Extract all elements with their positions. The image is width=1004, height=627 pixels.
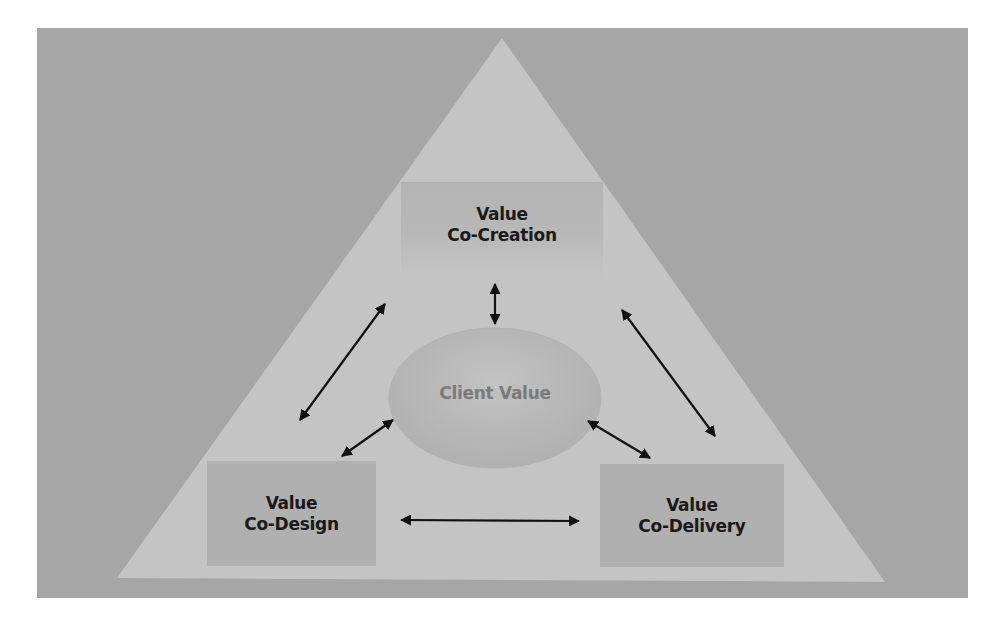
node-line2: Co-Delivery bbox=[638, 516, 745, 537]
node-value-co-delivery: Value Co-Delivery bbox=[600, 464, 784, 567]
diagram-canvas bbox=[0, 0, 1004, 627]
node-value-co-design: Value Co-Design bbox=[207, 461, 376, 566]
node-line1: Value bbox=[638, 495, 745, 516]
arrow-left-right bbox=[401, 520, 579, 521]
client-value-label: Client Value bbox=[390, 383, 600, 403]
node-line1: Value bbox=[447, 204, 557, 225]
node-value-co-creation: Value Co-Creation bbox=[401, 182, 603, 278]
node-line2: Co-Design bbox=[244, 514, 338, 535]
node-line1: Value bbox=[244, 493, 338, 514]
node-line2: Co-Creation bbox=[447, 225, 557, 246]
